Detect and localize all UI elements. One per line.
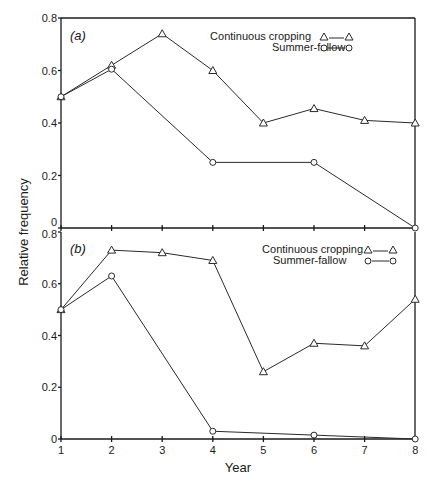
- y-tick-label: 0.8: [42, 12, 57, 24]
- legend-b: Continuous cropping Summer-fallow: [262, 243, 363, 266]
- x-tick-label: 2: [109, 444, 115, 456]
- y-tick-label: 0.2: [42, 381, 57, 393]
- circle-marker-icon: [58, 94, 64, 100]
- panel-label-a: (a): [70, 28, 86, 43]
- circle-marker-icon: [412, 436, 418, 442]
- y-axis-label: Relative frequency: [16, 178, 31, 286]
- circle-marker-icon: [109, 273, 115, 279]
- series-line: [61, 250, 415, 372]
- series-layer: [57, 30, 419, 442]
- triangle-marker-icon: [389, 246, 397, 253]
- x-tick-label: 8: [412, 444, 418, 456]
- x-tick-label: 3: [159, 444, 165, 456]
- triangle-marker-icon: [108, 246, 116, 253]
- y-tick-label: 0.6: [42, 278, 57, 290]
- triangle-marker-icon: [320, 33, 328, 40]
- triangle-marker-icon: [310, 339, 318, 346]
- x-tick-label: 1: [58, 444, 64, 456]
- circle-marker-icon: [109, 66, 115, 72]
- circle-marker-icon: [58, 307, 64, 313]
- triangle-marker-icon: [364, 246, 372, 253]
- triangle-marker-icon: [310, 105, 318, 112]
- panel-label-b: (b): [70, 241, 86, 256]
- x-axis-label: Year: [225, 460, 252, 475]
- legend-b-summer-fallow: Summer-fallow: [273, 254, 346, 266]
- circle-marker-icon: [365, 258, 371, 264]
- x-tick-label: 4: [210, 444, 216, 456]
- triangle-marker-icon: [259, 368, 267, 375]
- x-tick-label: 5: [260, 444, 266, 456]
- y-tick-label: 0: [51, 216, 57, 228]
- triangle-marker-icon: [158, 30, 166, 37]
- chart: 00.20.40.60.800.20.40.60.812345678 Year …: [0, 0, 436, 488]
- triangle-marker-icon: [209, 67, 217, 74]
- y-tick-label: 0.2: [42, 170, 57, 182]
- legend-a-summer-fallow: Summer-fallow: [272, 41, 345, 53]
- circle-marker-icon: [390, 258, 396, 264]
- y-tick-label: 0.4: [42, 117, 57, 129]
- legend-markers: [320, 33, 397, 264]
- axes: 00.20.40.60.800.20.40.60.812345678: [42, 12, 419, 456]
- y-tick-label: 0.8: [42, 228, 57, 240]
- circle-marker-icon: [321, 45, 327, 51]
- circle-marker-icon: [412, 225, 418, 231]
- y-tick-label: 0.6: [42, 65, 57, 77]
- series-line: [61, 34, 415, 123]
- y-tick-label: 0.4: [42, 330, 57, 342]
- circle-marker-icon: [210, 159, 216, 165]
- circle-marker-icon: [210, 428, 216, 434]
- y-tick-label: 0: [51, 433, 57, 445]
- x-tick-label: 7: [362, 444, 368, 456]
- triangle-marker-icon: [345, 33, 353, 40]
- series-line: [61, 276, 415, 439]
- circle-marker-icon: [311, 432, 317, 438]
- circle-marker-icon: [311, 159, 317, 165]
- series-line: [61, 69, 415, 228]
- triangle-marker-icon: [411, 295, 419, 302]
- circle-marker-icon: [346, 45, 352, 51]
- x-tick-label: 6: [311, 444, 317, 456]
